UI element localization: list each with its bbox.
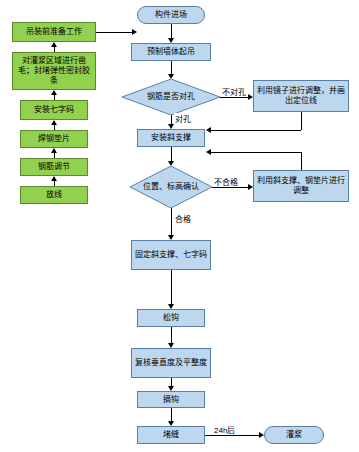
node-component-entry-label: 构件进场 bbox=[155, 10, 187, 20]
node-seal-joint: 堵缝 bbox=[137, 426, 205, 444]
edge-mirror-loop-left bbox=[211, 130, 301, 131]
edge-adjust-loop-up bbox=[301, 152, 302, 170]
node-position-check: 位置、标高确认 bbox=[130, 166, 212, 208]
node-precast-lift: 预制墙体起吊 bbox=[131, 43, 211, 61]
node-grouting: 灌浆 bbox=[264, 426, 324, 444]
edge-loosen-to-recheck bbox=[171, 327, 172, 343]
edge-remove-to-seal bbox=[171, 408, 172, 421]
edge-layout-to-rebar bbox=[54, 181, 55, 186]
node-component-entry: 构件进场 bbox=[137, 6, 205, 24]
node-layout-line: 放线 bbox=[20, 186, 88, 204]
node-recheck-label: 复核垂直度及平整度 bbox=[135, 358, 207, 368]
node-install-seven-code-label: 安装七字码 bbox=[34, 105, 74, 115]
node-fix-brace-label: 固定斜支撑、七字码 bbox=[135, 250, 207, 260]
node-brace-shim-adjust: 利用斜支撑、钢垫片进行调整 bbox=[253, 170, 349, 202]
node-fix-brace: 固定斜支撑、七字码 bbox=[131, 240, 211, 270]
edge-prep-to-precast bbox=[96, 32, 132, 33]
node-rebar-hole-check: 钢筋是否对孔 bbox=[122, 79, 220, 115]
node-rebar-hole-check-label: 钢筋是否对孔 bbox=[147, 92, 195, 102]
node-install-brace: 安装斜支撑 bbox=[137, 129, 205, 147]
node-recheck: 复核垂直度及平整度 bbox=[131, 348, 211, 378]
arrow-mirror-loop bbox=[206, 127, 211, 133]
edge-grout-to-prep bbox=[54, 47, 55, 52]
flowchart-canvas: 吊装前准备工作 对灌浆区域进行凿毛；封堵弹性密封胶条 安装七字码 焊钢垫片 钢筋… bbox=[0, 0, 359, 452]
node-loosen-hook-label: 松钩 bbox=[163, 313, 179, 323]
node-remove-hook-label: 摘钩 bbox=[163, 395, 179, 405]
edge-label-qualified: 合格 bbox=[174, 213, 192, 224]
edge-seven-to-grout bbox=[54, 95, 55, 100]
edge-rebar-to-weld bbox=[54, 153, 55, 158]
node-position-check-label: 位置、标高确认 bbox=[143, 182, 199, 192]
edge-precast-to-check bbox=[171, 61, 172, 74]
edge-label-after-24h: 24h后 bbox=[213, 424, 236, 435]
edge-check-to-brace bbox=[171, 115, 172, 124]
arrow-seven-to-grout bbox=[51, 90, 57, 95]
edge-adjust-loop-left bbox=[211, 152, 301, 153]
node-loosen-hook: 松钩 bbox=[137, 309, 205, 327]
node-seal-joint-label: 堵缝 bbox=[163, 430, 179, 440]
node-brace-shim-adjust-label: 利用斜支撑、钢垫片进行调整 bbox=[256, 176, 346, 196]
node-grout-area-label: 对灌浆区域进行凿毛；封堵弹性密封胶条 bbox=[15, 56, 93, 86]
arrow-adjust-loop bbox=[206, 149, 211, 155]
arrow-prep-to-precast bbox=[132, 29, 137, 35]
node-prep-work: 吊装前准备工作 bbox=[12, 22, 96, 42]
node-grout-area: 对灌浆区域进行凿毛；封堵弹性密封胶条 bbox=[12, 52, 96, 90]
edge-position-to-adjust bbox=[212, 187, 248, 188]
node-precast-lift-label: 预制墙体起吊 bbox=[147, 47, 195, 57]
edge-recheck-to-remove bbox=[171, 378, 172, 386]
node-mirror-adjust-label: 利用镜子进行调整，并画出定位线 bbox=[256, 86, 346, 106]
node-rebar-adjust: 钢筋调节 bbox=[20, 158, 88, 176]
edge-brace-to-position bbox=[171, 147, 172, 161]
node-rebar-adjust-label: 钢筋调节 bbox=[38, 162, 70, 172]
node-layout-line-label: 放线 bbox=[46, 190, 62, 200]
edge-seal-to-grouting bbox=[205, 435, 259, 436]
node-prep-work-label: 吊装前准备工作 bbox=[26, 27, 82, 37]
node-mirror-adjust: 利用镜子进行调整，并画出定位线 bbox=[253, 80, 349, 112]
arrow-layout-to-rebar bbox=[51, 176, 57, 181]
node-weld-shim-label: 焊钢垫片 bbox=[38, 134, 70, 144]
edge-label-aligned: 对孔 bbox=[174, 113, 192, 124]
edge-label-unqualified: 不合格 bbox=[213, 176, 239, 187]
edge-mirror-loop-down bbox=[301, 112, 302, 130]
edge-entry-to-precast bbox=[171, 24, 172, 38]
arrow-weld-to-seven bbox=[51, 120, 57, 125]
arrow-grout-to-prep bbox=[51, 42, 57, 47]
node-install-brace-label: 安装斜支撑 bbox=[151, 133, 191, 143]
edge-check-to-mirror bbox=[220, 97, 248, 98]
node-position-check-text: 位置、标高确认 bbox=[143, 182, 199, 191]
node-grouting-label: 灌浆 bbox=[286, 430, 302, 440]
edge-label-not-aligned: 不对孔 bbox=[221, 86, 247, 97]
node-install-seven-code: 安装七字码 bbox=[20, 100, 88, 120]
node-remove-hook: 摘钩 bbox=[137, 391, 205, 408]
edge-weld-to-seven bbox=[54, 125, 55, 130]
edge-fix-to-loosen bbox=[171, 270, 172, 304]
arrow-rebar-to-weld bbox=[51, 148, 57, 153]
node-weld-shim: 焊钢垫片 bbox=[20, 130, 88, 148]
edge-position-to-fix bbox=[171, 208, 172, 235]
